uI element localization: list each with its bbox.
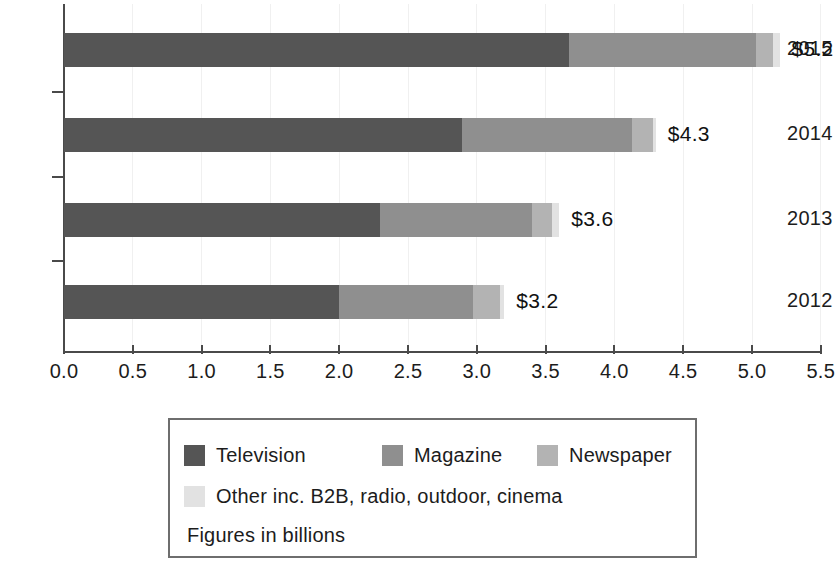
bar-segment	[632, 118, 653, 152]
x-axis-tick-label: 2.0	[309, 360, 369, 383]
x-axis-tick	[132, 345, 134, 354]
bar-segment	[64, 118, 462, 152]
x-axis-tick-label: 0.5	[103, 360, 163, 383]
x-axis-tick-label: 3.0	[447, 360, 507, 383]
chart-legend: TelevisionMagazineNewspaperOther inc. B2…	[168, 418, 697, 558]
bar-group: $3.2	[0, 285, 839, 319]
bar-value-label: $3.6	[571, 207, 613, 231]
legend-swatch-icon	[184, 486, 205, 507]
legend-swatch-icon	[382, 445, 403, 466]
legend-label: Other inc. B2B, radio, outdoor, cinema	[216, 485, 563, 508]
legend-entry: Magazine	[382, 436, 502, 474]
x-axis-tick	[476, 345, 478, 354]
bar-group: $5.2	[0, 33, 839, 67]
x-axis-tick-label: 1.5	[240, 360, 300, 383]
plot-area: 0.00.51.01.52.02.53.03.54.04.55.05.5 201…	[0, 0, 839, 355]
x-axis-tick	[820, 345, 822, 354]
bar-segment	[339, 285, 472, 319]
x-axis-tick-label: 2.5	[378, 360, 438, 383]
legend-swatch-icon	[184, 445, 205, 466]
x-axis-tick	[201, 345, 203, 354]
x-axis-tick-label: 5.0	[722, 360, 782, 383]
x-axis-tick	[751, 345, 753, 354]
bar-segment	[64, 33, 569, 67]
legend-label: Magazine	[414, 444, 502, 467]
bar-group: $3.6	[0, 203, 839, 237]
x-axis-tick-label: 5.5	[791, 360, 839, 383]
bar-group: $4.3	[0, 118, 839, 152]
bar-segment	[500, 285, 504, 319]
bar-value-label: $3.2	[516, 289, 558, 313]
legend-note: Figures in billions	[187, 524, 345, 547]
x-axis-tick	[613, 345, 615, 354]
x-axis-tick-label: 0.0	[34, 360, 94, 383]
bar-value-label: $4.3	[668, 122, 710, 146]
x-axis-tick-label: 4.0	[584, 360, 644, 383]
bar-segment	[756, 33, 773, 67]
bar-segment	[380, 203, 531, 237]
x-axis-tick-label: 1.0	[172, 360, 232, 383]
bar-segment	[64, 203, 380, 237]
x-axis-line	[63, 351, 821, 353]
x-axis-tick-label: 3.5	[516, 360, 576, 383]
bar-segment	[773, 33, 780, 67]
bar-segment	[473, 285, 501, 319]
legend-entry: Newspaper	[537, 436, 672, 474]
x-axis-tick	[407, 345, 409, 354]
bar-segment	[552, 203, 559, 237]
stacked-bar-chart: 0.00.51.01.52.02.53.03.54.04.55.05.5 201…	[0, 0, 839, 574]
legend-entry: Television	[184, 436, 306, 474]
x-axis-tick-label: 4.5	[653, 360, 713, 383]
legend-swatch-icon	[537, 445, 558, 466]
x-axis-tick	[269, 345, 271, 354]
y-axis-tick	[52, 260, 64, 262]
x-axis-tick	[63, 345, 65, 354]
x-axis-tick	[545, 345, 547, 354]
bar-value-label: $5.2	[792, 37, 834, 61]
bar-segment	[653, 118, 656, 152]
bar-segment	[569, 33, 756, 67]
bar-segment	[532, 203, 553, 237]
legend-entry: Other inc. B2B, radio, outdoor, cinema	[184, 477, 563, 515]
legend-label: Television	[216, 444, 306, 467]
y-axis-tick	[52, 91, 64, 93]
bar-segment	[64, 285, 339, 319]
x-axis-tick	[682, 345, 684, 354]
legend-label: Newspaper	[569, 444, 672, 467]
x-axis-tick	[338, 345, 340, 354]
y-axis-tick	[52, 176, 64, 178]
bar-segment	[462, 118, 633, 152]
